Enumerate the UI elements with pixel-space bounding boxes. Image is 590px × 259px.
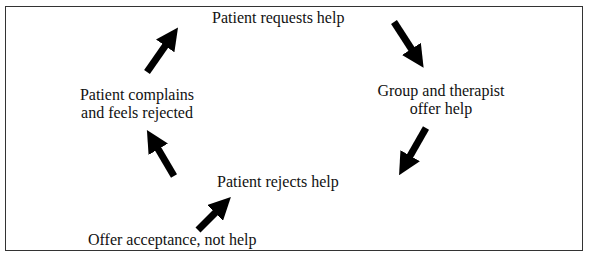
arrow-up-right-icon xyxy=(147,39,170,72)
arrow-down-left-icon xyxy=(406,128,426,163)
arrow-down-right-icon xyxy=(394,22,416,56)
arrow-intervention-icon xyxy=(198,207,221,230)
arrow-up-left-icon xyxy=(154,142,174,176)
arrows-layer xyxy=(0,0,590,259)
